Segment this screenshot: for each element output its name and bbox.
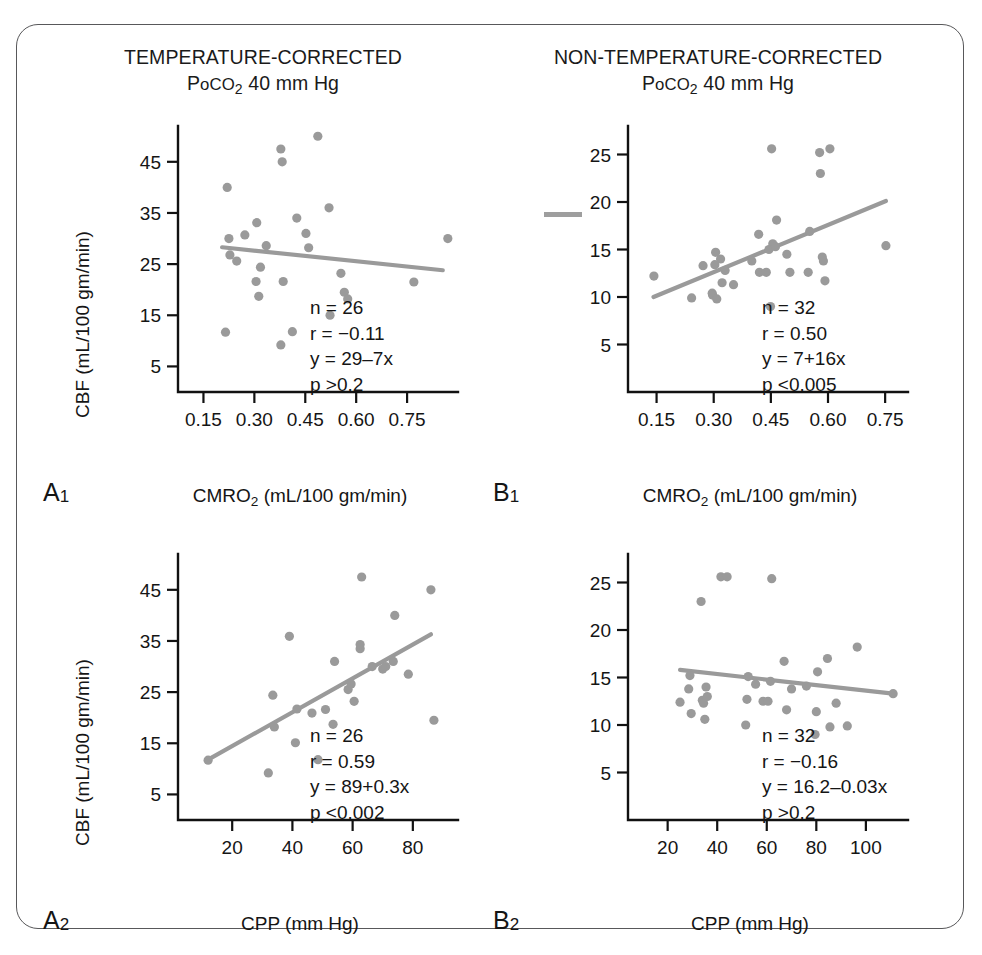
x-tick-label: 0.45 (287, 409, 324, 430)
data-point (381, 662, 390, 671)
data-point (820, 276, 829, 285)
data-point (251, 277, 260, 286)
data-point (204, 756, 213, 765)
data-point (304, 243, 313, 252)
data-point (264, 768, 273, 777)
data-point (292, 213, 301, 222)
data-point (685, 671, 694, 680)
poco2-o: o (200, 75, 209, 94)
scatter-a2: 51525354520406080 (130, 548, 460, 858)
data-point (649, 272, 658, 281)
data-point (330, 657, 339, 666)
y-tick-label: 15 (590, 240, 611, 261)
x-tick-label: 0.60 (338, 409, 375, 430)
x-tick-label: 0.30 (695, 409, 732, 430)
data-point (687, 709, 696, 718)
panel-b2-id-sub: 2 (510, 915, 520, 934)
data-point (802, 681, 811, 690)
y-tick-label: 5 (150, 784, 161, 805)
data-point (889, 689, 898, 698)
poco2-o: o (655, 75, 664, 94)
x-tick-label: 40 (707, 837, 728, 858)
data-point (703, 692, 712, 701)
data-point (747, 256, 756, 265)
data-point (390, 611, 399, 620)
panel-title-right-line1: NON-TEMPERATURE-CORRECTED (554, 46, 882, 68)
x-tick-label: 80 (402, 837, 423, 858)
panel-b1-stats: n = 32 r = 0.50 y = 7+16x p <0.005 (762, 295, 845, 397)
data-point (729, 280, 738, 289)
x-tick-label: 80 (806, 837, 827, 858)
panel-b1-stat-r: r = 0.50 (762, 321, 845, 347)
data-point (813, 667, 822, 676)
panel-b2-id: B2 (493, 906, 519, 935)
data-point (292, 704, 301, 713)
y-tick-label: 15 (140, 733, 161, 754)
data-point (763, 697, 772, 706)
data-point (742, 695, 751, 704)
data-point (815, 148, 824, 157)
x-tick-label: 0.15 (185, 409, 222, 430)
panel-b1-stat-p: p <0.005 (762, 372, 845, 398)
panel-a2-stat-n: n = 26 (310, 723, 409, 749)
data-point (767, 144, 776, 153)
data-point (717, 278, 726, 287)
panel-title-right: NON-TEMPERATURE-CORRECTED PoCO2 40 mm Hg (518, 46, 918, 97)
data-point (751, 680, 760, 689)
data-point (291, 738, 300, 747)
x-tick-label: 0.60 (810, 409, 847, 430)
data-point (712, 294, 721, 303)
data-point (268, 691, 277, 700)
poco2-subscript: 2 (235, 81, 243, 97)
x-tick-label: 40 (282, 837, 303, 858)
data-point (313, 132, 322, 141)
data-point (771, 242, 780, 251)
data-point (285, 632, 294, 641)
panel-a2-xlabel: CPP (mm Hg) (150, 913, 450, 935)
panel-title-left-line2: PoCO2 40 mm Hg (98, 72, 428, 97)
data-point (336, 269, 345, 278)
data-point (254, 292, 263, 301)
panel-b2-stat-y: y = 16.2–0.03x (762, 774, 887, 800)
figure-root: TEMPERATURE-CORRECTED PoCO2 40 mm Hg NON… (0, 0, 982, 955)
panel-a1-ylabel: CBF (mL/100 gm/min) (72, 231, 94, 418)
regression-line (680, 670, 893, 694)
data-point (782, 250, 791, 259)
data-point (762, 268, 771, 277)
data-point (240, 230, 249, 239)
data-point (307, 708, 316, 717)
scan-artifact-tick-20 (544, 212, 582, 217)
data-point (766, 677, 775, 686)
panel-a1-id: A1 (43, 478, 69, 507)
cmro2-suffix: (mL/100 gm/min) (708, 485, 857, 506)
y-tick-label: 35 (140, 631, 161, 652)
y-tick-label: 45 (140, 580, 161, 601)
y-tick-label: 5 (150, 356, 161, 377)
panel-b2-stats: n = 32 r = −0.16 y = 16.2–0.03x p >0.2 (762, 723, 887, 825)
x-tick-label: 100 (850, 837, 882, 858)
panel-b1-id: B1 (493, 478, 519, 507)
data-point (252, 218, 261, 227)
data-point (832, 699, 841, 708)
panel-a1-stat-n: n = 26 (310, 295, 393, 321)
data-point (270, 722, 279, 731)
y-tick-label: 25 (140, 682, 161, 703)
y-tick-label: 5 (600, 763, 611, 784)
data-point (368, 662, 377, 671)
panel-title-left: TEMPERATURE-CORRECTED PoCO2 40 mm Hg (98, 46, 428, 97)
panel-a1-stat-p: p >0.2 (310, 372, 393, 398)
panel-b2-stat-p: p >0.2 (762, 800, 887, 826)
data-point (389, 657, 398, 666)
poco2-co: CO (665, 75, 690, 94)
data-point (823, 654, 832, 663)
panel-b1-plot: 5101520250.150.300.450.600.75 (580, 120, 910, 430)
panel-a1-stat-r: r = −0.11 (310, 321, 393, 347)
data-point (675, 698, 684, 707)
data-point (276, 144, 285, 153)
data-point (347, 679, 356, 688)
panel-a2-id-sub: 2 (60, 915, 70, 934)
scatter-a1: 5152535450.150.300.450.600.75 (130, 120, 460, 430)
data-point (853, 643, 862, 652)
poco2-suffix: 40 mm Hg (243, 72, 339, 94)
data-point (404, 670, 413, 679)
